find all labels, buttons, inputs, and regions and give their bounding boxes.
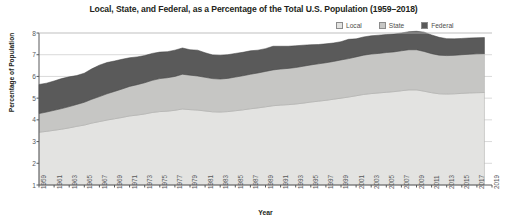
x-tick-label: 1977 bbox=[177, 175, 183, 189]
x-tick-label: 1989 bbox=[268, 175, 274, 189]
x-tick-label: 1959 bbox=[41, 175, 47, 189]
x-tick-label: 1991 bbox=[283, 175, 289, 189]
x-tick-label: 1975 bbox=[162, 175, 168, 189]
x-tick-label: 1983 bbox=[223, 175, 229, 189]
x-tick-label: 1967 bbox=[102, 175, 108, 189]
plot-area-wrapper: Percentage of Population 12345678 195919… bbox=[0, 0, 507, 223]
x-tick-label: 1971 bbox=[132, 175, 138, 189]
x-tick-label: 2003 bbox=[374, 175, 380, 189]
x-tick-label: 1993 bbox=[298, 175, 304, 189]
x-tick-label: 2017 bbox=[479, 175, 485, 189]
x-tick-label: 1985 bbox=[238, 175, 244, 189]
x-tick-label: 1979 bbox=[192, 175, 198, 189]
x-tick-label: 1973 bbox=[147, 175, 153, 189]
x-tick-label: 1997 bbox=[328, 175, 334, 189]
chart-container: Local, State, and Federal, as a Percenta… bbox=[0, 0, 507, 223]
x-tick-label: 1987 bbox=[253, 175, 259, 189]
x-tick-label: 2015 bbox=[464, 175, 470, 189]
x-axis-title: Year bbox=[39, 209, 492, 216]
x-tick-label: 2007 bbox=[404, 175, 410, 189]
x-tick-label: 2005 bbox=[389, 175, 395, 189]
x-tick-label: 1981 bbox=[208, 175, 214, 189]
x-tick-label: 2001 bbox=[359, 175, 365, 189]
x-tick-label: 1963 bbox=[72, 175, 78, 189]
x-tick-label: 2013 bbox=[449, 175, 455, 189]
x-tick-label: 1999 bbox=[343, 175, 349, 189]
x-tick-label: 2019 bbox=[494, 175, 500, 189]
x-tick-label: 1961 bbox=[57, 175, 63, 189]
x-axis-tick-labels: 1959196119631965196719691971197319751977… bbox=[0, 0, 507, 223]
x-tick-label: 2009 bbox=[419, 175, 425, 189]
x-tick-label: 1969 bbox=[117, 175, 123, 189]
x-tick-label: 2011 bbox=[434, 175, 440, 189]
x-tick-label: 1965 bbox=[87, 175, 93, 189]
x-tick-label: 1995 bbox=[313, 175, 319, 189]
